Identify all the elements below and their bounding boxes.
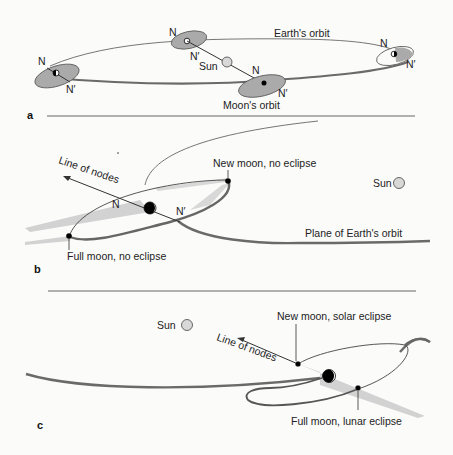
sun-icon: [394, 178, 405, 189]
dot: [117, 152, 119, 154]
sun-icon: [182, 320, 193, 331]
panel-letter-c: c: [37, 419, 43, 431]
moon-orbit-left: N N′: [32, 55, 82, 95]
node-label: N: [380, 37, 388, 49]
shadow-cone: [298, 364, 425, 418]
moon-orbit-top: N N′: [169, 26, 208, 62]
node-label: N: [112, 198, 120, 210]
full-moon-icon: [66, 233, 72, 239]
node-prime-label: N′: [176, 205, 186, 217]
new-moon-label: New moon, no eclipse: [213, 157, 316, 169]
new-moon-icon: [295, 361, 301, 367]
panel-c: Sun Line of nodes New moon, solar eclips…: [26, 310, 430, 431]
node-prime-label: N′: [278, 87, 288, 99]
moon-orbit-bottom: N N′: [236, 64, 287, 102]
full-moon-icon: [355, 385, 361, 391]
sun-label: Sun: [199, 60, 218, 72]
sun-label: Sun: [157, 319, 176, 331]
earth-orbit-label: Earth's orbit: [274, 27, 330, 39]
eclipse-diagram: N N′ N N′ Sun N N′ N N′: [0, 0, 453, 455]
shadow-cone: [25, 200, 150, 232]
moon-orbit-back: [298, 344, 408, 389]
panel-a: N N′ N N′ Sun N N′ N N′: [27, 26, 416, 121]
node-label: N: [38, 55, 46, 67]
full-moon-label: Full moon, lunar eclipse: [291, 415, 402, 427]
new-moon-icon: [225, 178, 231, 184]
node-prime-label: N′: [66, 83, 76, 95]
panel-b: Line of nodes N N′ New moon, no eclipse …: [25, 121, 430, 291]
node-prime-label: N′: [406, 58, 416, 70]
full-moon-label: Full moon, no eclipse: [67, 250, 166, 262]
plane-label: Plane of Earth's orbit: [305, 227, 402, 239]
line-of-nodes-label: Line of nodes: [215, 331, 278, 364]
node-label: N: [252, 64, 260, 76]
earth-orbit-plane: [26, 374, 320, 387]
moon-orbit-right: N N′: [374, 37, 415, 70]
new-moon-label: New moon, solar eclipse: [277, 310, 392, 322]
shadow-cone: [25, 236, 70, 245]
node-label: N: [169, 26, 177, 38]
sun-label: Sun: [373, 177, 392, 189]
moon-orbit-label: Moon's orbit: [223, 99, 280, 111]
panel-letter-b: b: [34, 263, 41, 275]
earth-orbit-back: [145, 121, 318, 185]
panel-letter-a: a: [27, 109, 34, 121]
line-of-nodes-label: Line of nodes: [57, 154, 121, 186]
sun-icon: [222, 57, 232, 67]
moon-icon: [262, 81, 267, 86]
